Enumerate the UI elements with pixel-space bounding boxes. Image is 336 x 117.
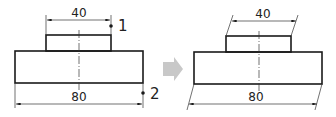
point-2-dot xyxy=(141,91,145,95)
left-drawing: 40 80 1 2 xyxy=(15,6,160,108)
right-ext-80-right xyxy=(315,84,322,110)
right-dim-40-label: 40 xyxy=(255,7,270,21)
left-dim-80-label: 80 xyxy=(71,90,86,104)
point-2-label: 2 xyxy=(150,85,160,103)
point-1-dot xyxy=(109,24,113,28)
right-drawing: 40 80 xyxy=(187,7,322,110)
right-ext-80-left xyxy=(187,84,194,110)
right-dim-80-label: 80 xyxy=(248,90,263,104)
left-dim-40-label: 40 xyxy=(71,6,86,20)
right-ext-40-right xyxy=(291,15,298,36)
right-ext-40-left xyxy=(226,15,233,36)
left-top-block xyxy=(46,35,111,51)
dimensioning-diagram: 40 80 1 2 40 80 xyxy=(0,0,336,117)
point-1-label: 1 xyxy=(118,17,128,35)
right-base-block xyxy=(194,52,322,84)
right-arrow-icon xyxy=(163,57,183,81)
right-top-block xyxy=(226,36,291,52)
